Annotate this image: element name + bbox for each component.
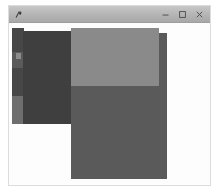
maximize-button[interactable] bbox=[174, 7, 191, 22]
minimize-icon bbox=[161, 10, 170, 19]
minimize-button[interactable] bbox=[157, 7, 174, 22]
application-window bbox=[8, 5, 211, 186]
title-bar[interactable] bbox=[9, 6, 210, 23]
left-strip-nub bbox=[16, 53, 21, 59]
desktop-backdrop bbox=[0, 0, 220, 195]
close-button[interactable] bbox=[191, 7, 208, 22]
window-controls bbox=[157, 6, 208, 23]
maximize-icon bbox=[178, 10, 187, 19]
app-icon bbox=[14, 10, 23, 19]
title-bar-left-group bbox=[9, 10, 26, 19]
close-icon bbox=[195, 10, 204, 19]
block-light-panel bbox=[71, 28, 159, 86]
canvas-content-area[interactable] bbox=[9, 23, 210, 186]
